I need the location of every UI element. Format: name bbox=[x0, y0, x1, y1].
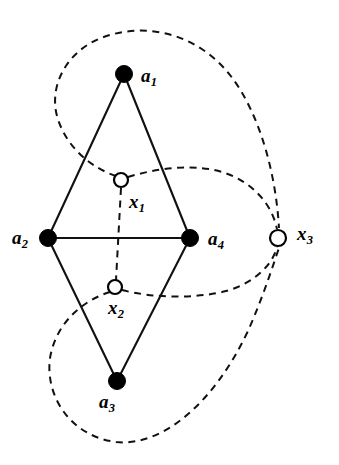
solid-edge-a2-a3 bbox=[48, 238, 117, 381]
dashed-edge-x1-x3-upper-right bbox=[128, 167, 277, 229]
vertex-label-a3: a3 bbox=[99, 392, 115, 411]
vertex-label-a1: a1 bbox=[141, 66, 157, 85]
vertex-x1[interactable] bbox=[114, 173, 128, 187]
dashed-edge-x2-x3-lower-right bbox=[122, 247, 277, 297]
vertex-a3[interactable] bbox=[109, 373, 126, 390]
vertex-group bbox=[40, 66, 287, 390]
vertex-label-x3: x3 bbox=[297, 224, 313, 243]
vertex-x3[interactable] bbox=[270, 230, 286, 246]
vertex-label-x2: x2 bbox=[108, 298, 124, 317]
vertex-a2[interactable] bbox=[40, 230, 57, 247]
solid-edge-a1-a2 bbox=[48, 74, 124, 238]
dashed-edge-group bbox=[49, 31, 279, 443]
solid-edge-a3-a4 bbox=[117, 238, 190, 381]
vertex-label-a2: a2 bbox=[12, 228, 28, 247]
vertex-a1[interactable] bbox=[116, 66, 133, 83]
graph-canvas bbox=[0, 0, 339, 465]
vertex-a4[interactable] bbox=[182, 230, 199, 247]
vertex-label-a4: a4 bbox=[208, 229, 224, 248]
dashed-edge-x1-x2 bbox=[116, 188, 121, 280]
vertex-label-x1: x1 bbox=[129, 192, 145, 211]
dashed-edge-x2-x3-bottom bbox=[49, 248, 279, 442]
figure-root: a1 a2 a3 a4 x1 x2 x3 bbox=[0, 0, 339, 465]
dashed-edge-x1-x3-top bbox=[55, 31, 279, 228]
vertex-x2[interactable] bbox=[108, 280, 122, 294]
solid-edge-a1-a4 bbox=[124, 74, 190, 238]
